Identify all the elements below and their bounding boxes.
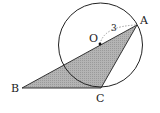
label-o: O (89, 32, 98, 45)
center-point-o (99, 43, 102, 46)
label-a: A (139, 14, 149, 27)
geometry-diagram: A B C O 3 (0, 0, 160, 113)
label-radius: 3 (111, 23, 117, 33)
label-b: B (11, 82, 19, 95)
label-c: C (96, 92, 104, 105)
